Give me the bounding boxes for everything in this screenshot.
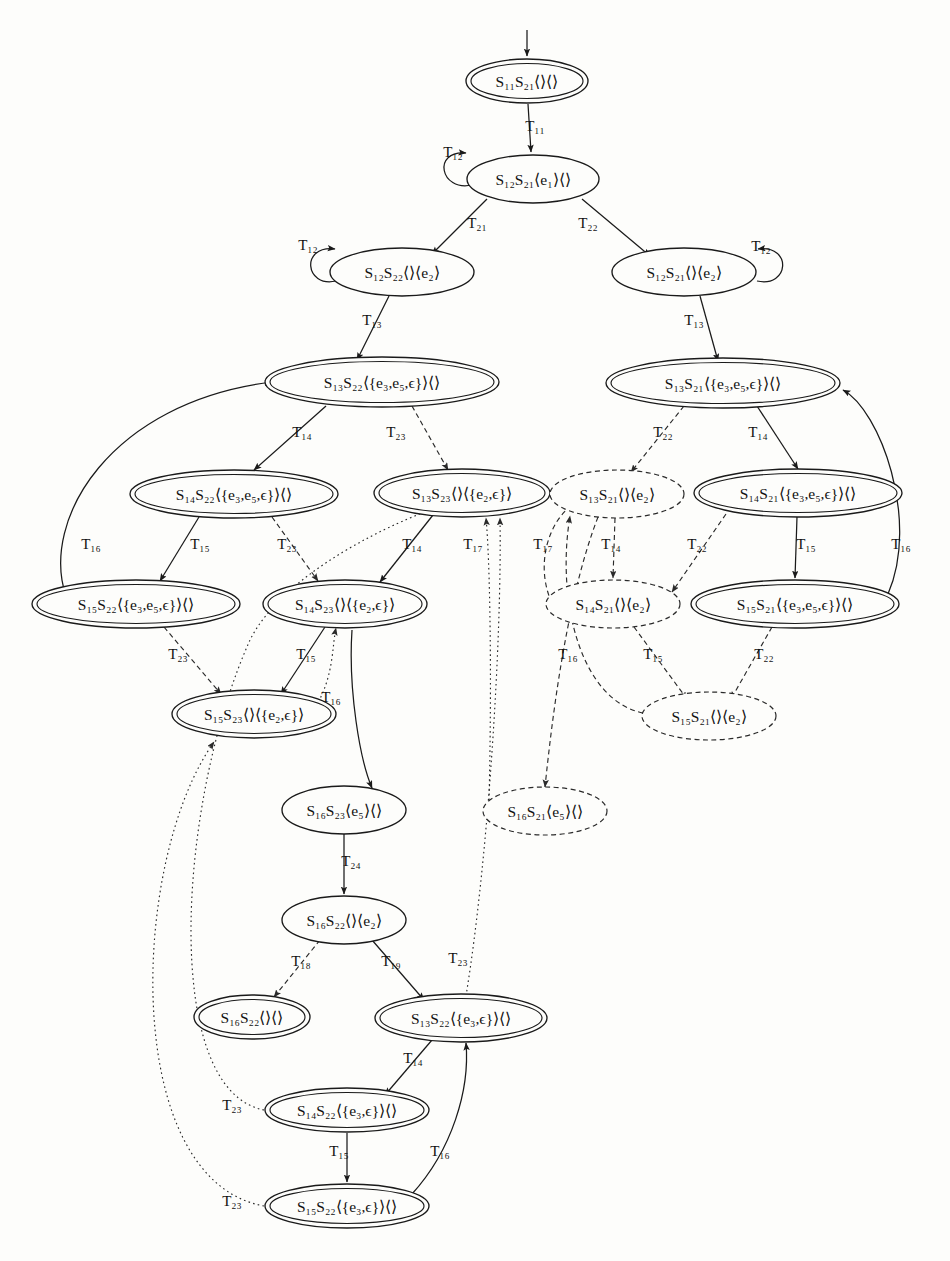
edge-label: T₁₂ (751, 238, 771, 254)
edge-label: T₁₅ (190, 536, 210, 552)
edge-label: T₂₃ (222, 1097, 242, 1113)
edge-n14-n16 (731, 627, 772, 699)
edge-label: T₁₆ (558, 646, 578, 662)
state-node[interactable]: S₁₂S₂₂⟨⟩⟨e₂⟩ (330, 248, 474, 296)
node-label: S₁₂S₂₁⟨e₁⟩⟨⟩ (495, 171, 570, 188)
edge-label: T₂₂ (653, 424, 673, 440)
edge-label: T₁₆ (891, 536, 911, 552)
edge-label: T₂₂ (687, 536, 707, 552)
edge-label: T₂₄ (341, 853, 361, 869)
state-node[interactable]: S₁₂S₂₁⟨e₁⟩⟨⟩ (467, 155, 599, 203)
node-label: S₁₅S₂₃⟨⟩⟨{e₂,ϵ}⟩ (204, 706, 304, 723)
state-node[interactable]: S₁₄S₂₃⟨⟩⟨{e₂,ϵ}⟩ (263, 580, 427, 628)
edge-n3-n5 (357, 296, 389, 360)
state-node[interactable]: S₁₃S₂₁⟨{e₃,e₅,ϵ}⟩⟨⟩ (606, 358, 840, 408)
node-label: S₁₅S₂₂⟨{e₃,e₅,ϵ}⟩⟨⟩ (78, 596, 194, 613)
edge-label: T₁₅ (329, 1143, 349, 1159)
edge-label: T₁₃ (362, 312, 382, 328)
state-node[interactable]: S₁₅S₂₃⟨⟩⟨{e₂,ϵ}⟩ (172, 690, 336, 738)
state-node[interactable]: S₁₅S₂₂⟨{e₃,ϵ}⟩⟨⟩ (265, 1184, 429, 1228)
state-node[interactable]: S₁₃S₂₂⟨{e₃,ϵ}⟩⟨⟩ (375, 994, 547, 1042)
edge-label: T₁₁ (525, 118, 545, 134)
edge-label: T₁₅ (643, 646, 663, 662)
edge-incoming-n8-t17 (486, 518, 490, 800)
edge-label: T₂₁ (467, 215, 487, 231)
node-label: S₁₆S₂₂⟨⟩⟨⟩ (221, 1009, 284, 1026)
node-label: S₁₂S₂₁⟨⟩⟨e₂⟩ (646, 264, 721, 281)
edge-n21-n8 (466, 518, 500, 996)
node-label: S₁₄S₂₁⟨⟩⟨e₂⟩ (575, 596, 650, 613)
node-label: S₁₃S₂₂⟨{e₃,e₅,ϵ}⟩⟨⟩ (324, 374, 440, 391)
node-label: S₁₄S₂₃⟨⟩⟨{e₂,ϵ}⟩ (295, 596, 395, 613)
edge-label: T₁₄ (403, 1050, 423, 1066)
node-label: S₁₆S₂₁⟨e₅⟩⟨⟩ (507, 803, 582, 820)
state-node[interactable]: S₁₄S₂₂⟨{e₃,ϵ}⟩⟨⟩ (265, 1088, 429, 1132)
edge-label: T₂₂ (754, 646, 774, 662)
edge-n12-n17 (351, 630, 372, 788)
edge-label: T₂₃ (277, 536, 297, 552)
node-label: S₁₆S₂₂⟨⟩⟨e₂⟩ (306, 912, 381, 929)
node-label: S₁₄S₂₂⟨{e₃,e₅,ϵ}⟩⟨⟩ (176, 486, 292, 503)
node-label: S₁₂S₂₂⟨⟩⟨e₂⟩ (364, 264, 439, 281)
state-node[interactable]: S₁₅S₂₁⟨{e₃,e₅,ϵ}⟩⟨⟩ (691, 580, 899, 628)
edge-label: T₁₅ (796, 536, 816, 552)
edge-label: T₁₅ (296, 646, 316, 662)
edge-n13-n16 (634, 627, 687, 699)
edge-label: T₁₆ (430, 1143, 450, 1159)
edge-label: T₁₈ (291, 953, 311, 969)
edge-label: T₂₃ (222, 1193, 242, 1209)
state-node[interactable]: S₁₆S₂₂⟨⟩⟨⟩ (194, 995, 310, 1039)
node-label: S₁₃S₂₁⟨⟩⟨e₂⟩ (579, 486, 654, 503)
state-node[interactable]: S₁₁S₂₁⟨⟩⟨⟩ (466, 59, 588, 103)
node-label: S₁₁S₂₁⟨⟩⟨⟩ (496, 73, 559, 90)
node-label: S₁₄S₂₁⟨{e₃,e₅,ϵ}⟩⟨⟩ (740, 485, 856, 502)
node-label: S₁₆S₂₃⟨e₅⟩⟨⟩ (306, 802, 381, 819)
state-node[interactable]: S₁₂S₂₁⟨⟩⟨e₂⟩ (612, 248, 756, 296)
edge-label: T₁₃ (684, 312, 704, 328)
edge-label: T₁₆ (81, 536, 101, 552)
node-label: S₁₅S₂₂⟨{e₃,ϵ}⟩⟨⟩ (297, 1198, 397, 1215)
node-label: S₁₃S₂₁⟨{e₃,e₅,ϵ}⟩⟨⟩ (665, 375, 781, 392)
edge-label: T₂₂ (578, 215, 598, 231)
node-label: S₁₅S₂₁⟨⟩⟨e₂⟩ (671, 708, 746, 725)
edge-label: T₁₇ (533, 536, 553, 552)
edge-label: T₁₉ (381, 953, 401, 969)
state-node[interactable]: S₁₆S₂₃⟨e₅⟩⟨⟩ (282, 786, 406, 834)
state-node[interactable]: S₁₆S₂₁⟨e₅⟩⟨⟩ (483, 787, 607, 835)
diagram-page: S₁₁S₂₁⟨⟩⟨⟩S₁₂S₂₁⟨e₁⟩⟨⟩S₁₂S₂₂⟨⟩⟨e₂⟩S₁₂S₂₁… (0, 0, 950, 1261)
state-node[interactable]: S₁₄S₂₁⟨{e₃,e₅,ϵ}⟩⟨⟩ (694, 469, 902, 517)
node-label: S₁₃S₂₃⟨⟩⟨{e₂,ϵ}⟩ (412, 485, 512, 502)
node-label: S₁₃S₂₂⟨{e₃,ϵ}⟩⟨⟩ (411, 1010, 511, 1027)
edge-n23-n15 (153, 742, 264, 1206)
edge-n5-n8 (412, 406, 448, 470)
edge-label: T₁₇ (463, 536, 483, 552)
edge-label: T₂₃ (448, 950, 468, 966)
edge-label: T₂₃ (168, 646, 188, 662)
state-node[interactable]: S₁₅S₂₂⟨{e₃,e₅,ϵ}⟩⟨⟩ (32, 580, 240, 628)
state-node[interactable]: S₁₄S₂₁⟨⟩⟨e₂⟩ (546, 580, 680, 628)
node-label: S₁₄S₂₂⟨{e₃,ϵ}⟩⟨⟩ (297, 1102, 397, 1119)
state-node[interactable]: S₁₅S₂₁⟨⟩⟨e₂⟩ (642, 692, 776, 740)
edge-label: T₁₂ (443, 144, 463, 160)
edge-label: T₂₃ (386, 424, 406, 440)
edge-label: T₁₄ (601, 536, 621, 552)
state-node[interactable]: S₁₄S₂₂⟨{e₃,e₅,ϵ}⟩⟨⟩ (130, 470, 338, 518)
state-node[interactable]: S₁₃S₂₁⟨⟩⟨e₂⟩ (550, 470, 684, 518)
edge-label: T₁₄ (748, 424, 768, 440)
state-transition-graph: S₁₁S₂₁⟨⟩⟨⟩S₁₂S₂₁⟨e₁⟩⟨⟩S₁₂S₂₂⟨⟩⟨e₂⟩S₁₂S₂₁… (0, 0, 950, 1261)
edge-label: T₁₄ (292, 424, 312, 440)
edge-label: T₁₂ (298, 237, 318, 253)
state-node[interactable]: S₁₃S₂₂⟨{e₃,e₅,ϵ}⟩⟨⟩ (265, 357, 499, 407)
edge-n4-n6 (700, 296, 718, 361)
node-label: S₁₅S₂₁⟨{e₃,e₅,ϵ}⟩⟨⟩ (737, 596, 853, 613)
state-node[interactable]: S₁₆S₂₂⟨⟩⟨e₂⟩ (282, 896, 406, 944)
edge-n21-n22 (385, 1040, 432, 1095)
state-node[interactable]: S₁₃S₂₃⟨⟩⟨{e₂,ϵ}⟩ (374, 469, 550, 517)
edge-label: T₁₆ (321, 689, 341, 705)
edge-n10-n13 (672, 514, 726, 592)
edge-n5-n7 (254, 406, 326, 470)
edge-label: T₁₄ (402, 536, 422, 552)
edge-n19-n21 (372, 940, 424, 1000)
